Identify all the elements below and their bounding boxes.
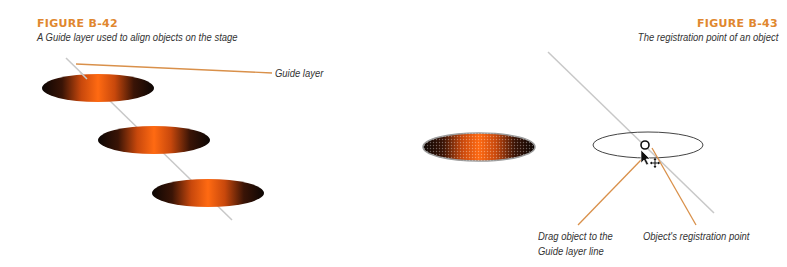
registration-point-callout-line bbox=[652, 148, 696, 225]
registration-point-icon bbox=[641, 141, 649, 149]
figure-b43-diagram bbox=[423, 52, 714, 225]
gradient-ellipse-1 bbox=[42, 74, 154, 102]
drag-object-label-line1: Drag object to the bbox=[538, 229, 613, 244]
drag-object-label-line2: Guide layer line bbox=[538, 244, 613, 259]
guide-layer-callout-line bbox=[76, 64, 272, 73]
drag-object-callout-line bbox=[578, 160, 641, 225]
figure-illustrations bbox=[0, 0, 787, 267]
drag-object-label: Drag object to the Guide layer line bbox=[538, 229, 613, 259]
gradient-ellipse-2 bbox=[98, 126, 210, 154]
registration-point-label: Object's registration point bbox=[643, 229, 749, 244]
gradient-ellipse-3 bbox=[152, 179, 264, 207]
arrow-cursor-icon bbox=[641, 150, 650, 165]
guide-layer-label: Guide layer bbox=[275, 66, 323, 81]
figure-b42-diagram bbox=[42, 58, 272, 220]
